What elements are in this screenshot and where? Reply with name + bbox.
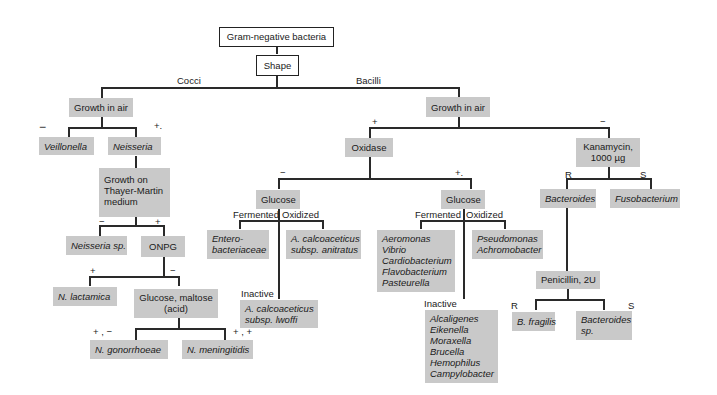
line: subsp. anitratus xyxy=(291,244,356,255)
bacteroides-node: Bacteroides xyxy=(540,189,596,208)
connector xyxy=(535,299,604,301)
n-lactamica-node: N. lactamica xyxy=(53,287,117,306)
line: bacteriaceae xyxy=(212,244,264,255)
inactive-label: Inactive xyxy=(241,288,274,299)
line: A. calcoaceticus xyxy=(291,233,356,244)
meningitidis-result-label: + , + xyxy=(233,326,252,337)
line: A. calcoaceticus xyxy=(245,303,313,314)
line: Cardiobacterium xyxy=(382,255,450,266)
connector xyxy=(68,127,70,137)
veillonella-node: Veillonella xyxy=(39,137,94,155)
penicillin-node: Penicillin, 2U xyxy=(536,271,600,289)
enterobacteriaceae-node: Entero- bacteriaceae xyxy=(207,230,269,259)
line: Thayer-Martin xyxy=(104,185,165,196)
cocci-label: Cocci xyxy=(177,75,201,86)
connector xyxy=(178,276,180,286)
line: Alcaligenes xyxy=(430,313,493,324)
line: Achromobacter xyxy=(477,244,538,255)
n-meningitidis-node: N. meningitidis xyxy=(182,340,253,359)
onpg-minus-label: − xyxy=(170,265,176,276)
connector xyxy=(322,220,324,229)
neisseria-sp-node: Neisseria sp. xyxy=(66,236,127,255)
line: 1000 µg xyxy=(581,152,635,163)
line: Moraxella xyxy=(430,335,493,346)
line: Eikenella xyxy=(430,324,493,335)
connector xyxy=(603,299,605,310)
line: Hemophilus xyxy=(430,357,493,368)
connector xyxy=(135,328,137,340)
veillonella-minus-label: − xyxy=(39,122,46,133)
line: (acid) xyxy=(139,303,213,314)
line: medium xyxy=(104,196,165,207)
penicillin-r-label: R xyxy=(511,300,518,311)
connector xyxy=(163,225,165,236)
bacilli-plus-label: + xyxy=(372,116,378,127)
bacilli-minus-label: − xyxy=(600,116,606,127)
inactive-list-node: Alcaligenes Eikenella Moraxella Brucella… xyxy=(425,310,498,383)
fusobacterium-node: Fusobacterium xyxy=(610,189,680,208)
connector xyxy=(89,276,91,286)
glucose-maltose-node: Glucose, maltose (acid) xyxy=(134,289,218,318)
line: subsp. lwoffi xyxy=(245,314,313,325)
fermented-label: Fermented xyxy=(233,209,279,220)
shape-node: Shape xyxy=(256,55,299,76)
oxidase-minus-label: − xyxy=(280,167,286,178)
tm-minus-label: − xyxy=(99,216,105,227)
connector xyxy=(135,127,137,137)
connector xyxy=(101,87,459,89)
connector xyxy=(504,220,506,229)
connector xyxy=(420,220,422,229)
connector xyxy=(420,220,505,222)
connector xyxy=(278,178,280,189)
glucose-negative-node: Glucose xyxy=(256,190,300,209)
glucose-positive-node: Glucose xyxy=(441,190,485,209)
connector xyxy=(463,209,465,299)
connector xyxy=(68,127,136,129)
line: Brucella xyxy=(430,346,493,357)
bacilli-growth-in-air-node: Growth in air xyxy=(426,97,490,117)
line: Pasteurella xyxy=(382,277,450,288)
fermented-label: Fermented xyxy=(415,209,461,220)
n-gonorrhoeae-node: N. gonorrhoeae xyxy=(90,340,168,359)
oxidized-label: Oxidized xyxy=(466,209,503,220)
connector xyxy=(224,328,226,340)
a-calcoaceticus-anitratus-node: A. calcoaceticus subsp. anitratus xyxy=(286,230,361,259)
kanamycin-s-label: S xyxy=(640,169,646,180)
connector xyxy=(135,328,225,330)
fermenters-node: Aeromonas Vibrio Cardiobacterium Flavoba… xyxy=(377,230,455,292)
onpg-plus-label: + xyxy=(90,265,96,276)
connector xyxy=(135,156,137,168)
line: Growth on xyxy=(104,174,165,185)
kanamycin-r-label: R xyxy=(565,169,572,180)
connector xyxy=(566,208,568,273)
connector xyxy=(470,178,472,189)
line: Bacteroides xyxy=(581,314,627,325)
connector xyxy=(278,178,471,180)
oxidized-label: Oxidized xyxy=(282,209,319,220)
line: Flavobacterium xyxy=(382,266,450,277)
a-calcoaceticus-lwoffi-node: A. calcoaceticus subsp. lwoffi xyxy=(240,300,318,328)
line: Campylobacter xyxy=(430,368,493,379)
tm-plus-label: + xyxy=(155,216,161,227)
connector xyxy=(101,87,103,98)
neisseria-plus-label: +. xyxy=(154,120,162,131)
line: Aeromonas xyxy=(382,233,450,244)
connector xyxy=(239,220,323,222)
connector xyxy=(239,220,241,229)
line: Glucose, maltose xyxy=(139,292,213,303)
oxidizers-node: Pseudomonas Achromobacter xyxy=(472,230,543,259)
oxidase-node: Oxidase xyxy=(345,138,393,157)
connector xyxy=(163,257,165,277)
connector xyxy=(535,299,537,310)
onpg-node: ONPG xyxy=(141,236,185,257)
connector xyxy=(276,46,278,54)
root-node: Gram-negative bacteria xyxy=(219,27,334,47)
bacteroides-sp-node: Bacteroides sp. xyxy=(576,311,632,340)
connector xyxy=(650,178,652,189)
connector xyxy=(369,127,371,138)
connector xyxy=(369,127,609,129)
kanamycin-node: Kanamycin, 1000 µg xyxy=(576,138,640,167)
line: Kanamycin, xyxy=(581,141,635,152)
connector xyxy=(566,178,651,180)
neisseria-node: Neisseria xyxy=(108,137,161,155)
